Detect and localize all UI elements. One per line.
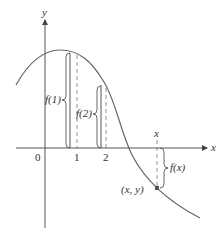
f2-label: f(2)	[76, 107, 92, 120]
y-axis-label: y	[41, 6, 47, 18]
x-axis-label: x	[210, 141, 216, 153]
fx-brace	[160, 148, 168, 188]
function-curve	[16, 50, 200, 218]
function-graph-diagram: y x 0 1 2 x f(1) f(2) f(x) (x, y)	[0, 0, 221, 231]
f1-brace	[62, 53, 70, 148]
f1-label: f(1)	[45, 93, 61, 106]
x-point-label: x	[153, 127, 159, 139]
tick-label-1: 1	[74, 151, 80, 163]
origin-label: 0	[35, 151, 41, 163]
graph-canvas: y x 0 1 2 x f(1) f(2) f(x) (x, y)	[0, 0, 221, 231]
f2-brace	[93, 86, 101, 148]
point-label: (x, y)	[121, 183, 144, 196]
point-marker	[155, 186, 159, 190]
tick-label-2: 2	[103, 151, 109, 163]
fx-label: f(x)	[170, 161, 186, 174]
